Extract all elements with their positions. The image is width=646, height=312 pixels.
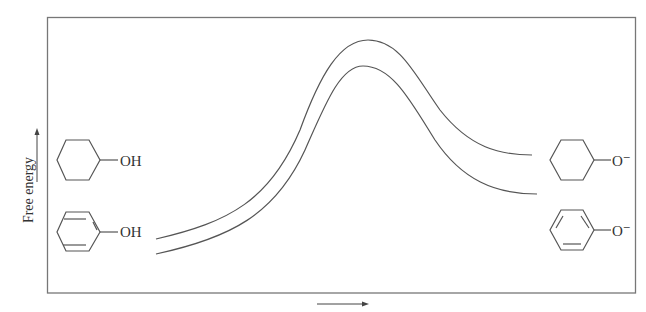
cyclohexane-ring-icon xyxy=(550,140,594,180)
phenoxide-substituent: O⁻ xyxy=(612,223,631,239)
phenoxide-structure xyxy=(550,210,611,250)
y-axis-label: Free energy xyxy=(21,157,36,223)
arrow-right-icon xyxy=(362,302,369,307)
y-axis: Free energy xyxy=(21,128,40,223)
phenol-structure xyxy=(57,212,118,251)
cyclohexoxide-structure xyxy=(550,140,611,180)
arrow-up-icon xyxy=(35,128,40,135)
cyclohexanol-structure xyxy=(57,140,118,180)
phenol-ionization-curve xyxy=(156,66,537,254)
phenol-substituent: OH xyxy=(120,224,142,240)
cyclohexoxide-substituent: O⁻ xyxy=(612,153,631,169)
free-energy-diagram: Free energy OH OH O⁻ O⁻ xyxy=(0,0,646,312)
x-axis-arrow xyxy=(317,302,369,307)
cyclohexane-ring-icon xyxy=(57,140,100,180)
cyclohexanol-substituent: OH xyxy=(120,153,142,169)
cyclohexanol-ionization-curve xyxy=(156,40,532,239)
